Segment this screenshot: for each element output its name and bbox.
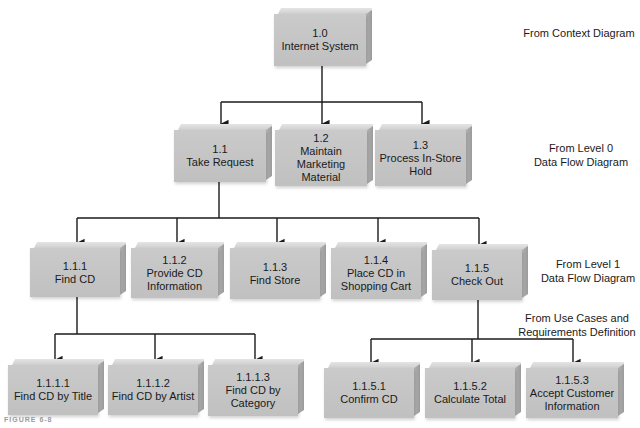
process-box-1-1-5: 1.1.5 Check Out [432, 244, 528, 300]
process-box-1-1-5-3: 1.1.5.3 Accept Customer Information [526, 362, 624, 418]
box-side-bevel [120, 244, 126, 295]
process-box-1-1-4: 1.1.4 Place CD in Shopping Cart [331, 242, 427, 299]
process-label: Calculate Total [434, 393, 506, 406]
level-2-annotation: From Level 1 Data Flow Diagram [536, 257, 640, 285]
process-label: Find CD by Artist [112, 390, 195, 403]
process-label-line-1: Accept Customer [530, 387, 614, 400]
process-box-1-1-5-2: 1.1.5.2 Calculate Total [425, 362, 521, 418]
process-number: 1.2 [313, 132, 328, 145]
box-side-bevel [421, 244, 427, 297]
annotation-line-1: From Level 0 [526, 141, 636, 155]
box-side-bevel [414, 364, 420, 416]
process-number: 1.1.5.2 [453, 380, 487, 393]
process-label-line-2: Information [147, 280, 202, 293]
hierarchy-chart: 1.0 Internet System 1.1 Take Request 1.2… [0, 0, 640, 428]
box-face: 1.1 Take Request [174, 130, 266, 182]
annotation-line-2: Data Flow Diagram [526, 155, 636, 169]
process-number: 1.1.1.3 [236, 371, 270, 384]
box-side-bevel [298, 361, 304, 414]
level-1-annotation: From Level 0 Data Flow Diagram [526, 141, 636, 169]
process-label-line-1: Provide CD [146, 267, 202, 280]
process-label-line-1: Maintain Marketing [277, 145, 365, 171]
process-label-line-2: Shopping Cart [341, 280, 411, 293]
box-side-bevel [515, 364, 521, 416]
process-number: 1.3 [413, 139, 428, 152]
process-box-1-1-1-1: 1.1.1.1 Find CD by Title [8, 359, 104, 415]
box-side-bevel [367, 126, 373, 184]
process-label-line-2: Information [544, 400, 599, 413]
box-face: 1.1.2 Provide CD Information [131, 248, 218, 298]
process-box-1-1-1: 1.1.1 Find CD [30, 242, 126, 297]
box-face: 1.3 Process In-Store Hold [375, 130, 466, 186]
box-face: 1.1.1 Find CD [30, 248, 120, 297]
box-face: 1.1.5.1 Confirm CD [324, 368, 414, 418]
box-side-bevel [98, 361, 104, 413]
process-label-line-1: Find CD by [225, 384, 280, 397]
process-number: 1.1.1.1 [36, 377, 70, 390]
box-face: 1.1.1.2 Find CD by Artist [108, 365, 198, 415]
box-side-bevel [366, 10, 372, 64]
process-label-line-2: Material [301, 171, 340, 184]
process-label: Check Out [451, 275, 503, 288]
process-box-1-1-2: 1.1.2 Provide CD Information [131, 242, 224, 298]
box-face: 1.1.5.2 Calculate Total [425, 368, 515, 418]
process-number: 1.0 [312, 27, 327, 40]
box-side-bevel [618, 364, 624, 416]
process-label-line-1: Place CD in [347, 267, 405, 280]
annotation-line-2: Data Flow Diagram [536, 271, 640, 285]
annotation-line-1: From Use Cases and [514, 311, 640, 325]
box-face: 1.1.5 Check Out [432, 250, 522, 300]
box-side-bevel [218, 244, 224, 296]
box-side-bevel [522, 246, 528, 298]
process-number: 1.1.4 [364, 254, 388, 267]
process-box-1-1-1-3: 1.1.1.3 Find CD by Category [208, 359, 304, 416]
box-face: 1.1.1.1 Find CD by Title [8, 365, 98, 415]
box-side-bevel [266, 126, 272, 180]
process-number: 1.1.3 [263, 261, 287, 274]
process-label: Internet System [281, 40, 358, 53]
process-box-1-1-3: 1.1.3 Find Store [230, 242, 326, 299]
level-3-annotation: From Use Cases and Requirements Definiti… [514, 311, 640, 339]
box-side-bevel [198, 361, 204, 413]
annotation-line-1: From Context Diagram [520, 26, 638, 40]
process-number: 1.1.5.3 [555, 374, 589, 387]
process-box-1-0: 1.0 Internet System [274, 8, 372, 66]
process-label-line-1: Process In-Store [380, 152, 462, 165]
box-face: 1.1.4 Place CD in Shopping Cart [331, 248, 421, 299]
box-face: 1.0 Internet System [274, 14, 366, 66]
process-label: Find CD [55, 273, 95, 286]
process-box-1-1: 1.1 Take Request [174, 124, 272, 182]
level-0-annotation: From Context Diagram [520, 26, 638, 40]
process-number: 1.1.5.1 [352, 380, 386, 393]
process-box-1-3: 1.3 Process In-Store Hold [375, 124, 472, 186]
process-label: Find CD by Title [14, 390, 92, 403]
figure-caption: FIGURE 6-8 [4, 416, 53, 423]
box-face: 1.1.5.3 Accept Customer Information [526, 368, 618, 418]
process-number: 1.1 [212, 143, 227, 156]
box-side-bevel [466, 126, 472, 184]
process-label-line-2: Hold [409, 165, 432, 178]
process-box-1-2: 1.2 Maintain Marketing Material [275, 124, 373, 186]
process-label: Find Store [250, 274, 301, 287]
process-box-1-1-5-1: 1.1.5.1 Confirm CD [324, 362, 420, 418]
box-side-bevel [320, 244, 326, 297]
process-number: 1.1.1.2 [136, 377, 170, 390]
process-number: 1.1.1 [63, 260, 87, 273]
box-face: 1.1.1.3 Find CD by Category [208, 365, 298, 416]
box-face: 1.1.3 Find Store [230, 248, 320, 299]
box-face: 1.2 Maintain Marketing Material [275, 130, 367, 186]
annotation-line-2: Requirements Definition [514, 325, 640, 339]
process-number: 1.1.5 [465, 262, 489, 275]
annotation-line-1: From Level 1 [536, 257, 640, 271]
process-box-1-1-1-2: 1.1.1.2 Find CD by Artist [108, 359, 204, 415]
process-label: Confirm CD [340, 393, 397, 406]
process-label: Take Request [186, 156, 253, 169]
process-label-line-2: Category [231, 397, 276, 410]
process-number: 1.1.2 [162, 254, 186, 267]
